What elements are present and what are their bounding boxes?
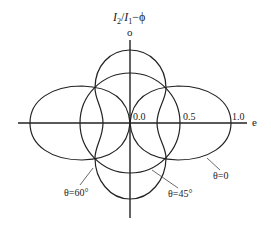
leader-theta-60: [80, 168, 93, 185]
label-theta-0: θ=0: [213, 170, 228, 181]
leader-theta-45: [152, 170, 178, 188]
leader-theta-0: [207, 158, 220, 170]
tick-0-0: 0.0: [133, 111, 146, 122]
vertical-axis-label: o: [127, 26, 133, 38]
polar-diagram: I2/I1−ϕ o e 0.0 0.5 1.0 θ=0 θ=45° θ=60°: [0, 0, 271, 234]
tick-0-5: 0.5: [183, 111, 196, 122]
tick-1-0: 1.0: [232, 111, 245, 122]
horizontal-axis-label: e: [252, 116, 257, 128]
label-theta-45: θ=45°: [168, 188, 192, 199]
diagram-canvas: I2/I1−ϕ o e 0.0 0.5 1.0 θ=0 θ=45° θ=60°: [0, 0, 271, 234]
chart-title: I2/I1−ϕ: [112, 10, 145, 26]
label-theta-60: θ=60°: [64, 187, 88, 198]
